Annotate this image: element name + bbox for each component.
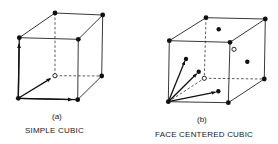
cube-edge [169, 41, 230, 43]
corner-atom [166, 99, 171, 104]
corner-atom [262, 77, 267, 82]
cube-edge [78, 76, 102, 100]
panel-b-title: FACE CENTERED CUBIC [155, 130, 253, 139]
cube-edge [228, 42, 230, 102]
face-center-atom-bottom [216, 89, 220, 93]
corner-atom [16, 96, 21, 101]
corner-atom [17, 35, 22, 40]
corner-atom [228, 40, 233, 45]
corner-atom [263, 17, 268, 22]
panel-b-sublabel: (b) [197, 115, 207, 124]
cube-edge [102, 15, 103, 76]
corner-atom [167, 38, 172, 43]
corner-atom [76, 37, 81, 42]
corner-atom [226, 100, 231, 105]
hidden-edge [204, 18, 206, 79]
panel-a-sublabel: (a) [52, 112, 62, 121]
face-center-atom-top [217, 27, 221, 31]
lattice-vector-arrow [168, 61, 185, 101]
hidden-corner-atom [53, 74, 57, 78]
lattice-vector-arrow [18, 44, 19, 98]
corner-atom [75, 97, 80, 102]
corner-atom [100, 13, 105, 18]
corner-atom [204, 15, 209, 20]
panel-a-title: SIMPLE CUBIC [25, 126, 84, 135]
cube-edge [206, 18, 265, 19]
face-center-atom-front [197, 70, 201, 74]
cube-edge [19, 13, 55, 38]
corner-atom [99, 74, 104, 79]
lattice-vector-arrow [18, 98, 72, 99]
cube-edge [55, 13, 103, 15]
corner-atom [53, 11, 58, 16]
cube-edge [78, 15, 102, 39]
cube-edge [230, 19, 265, 42]
face-center-atom-right [245, 60, 249, 64]
face-center-atom-back-hidden [232, 47, 236, 51]
lattice-vector-arrow [18, 79, 50, 99]
cube-edge [264, 19, 265, 79]
hidden-edge [204, 78, 264, 79]
cube-edge [19, 38, 78, 40]
cube-edge [78, 39, 79, 99]
hidden-corner-atom [202, 76, 206, 80]
cube-edge [169, 18, 206, 41]
face-center-atom-left [184, 57, 188, 61]
cube-edge [168, 102, 228, 103]
fcc-cell [166, 15, 268, 105]
cube-edge [228, 79, 264, 103]
cube-edge [168, 41, 169, 102]
crystal-lattice-diagram [0, 0, 278, 144]
lattice-vector-arrow [168, 92, 215, 102]
simple-cubic-cell [16, 11, 105, 103]
